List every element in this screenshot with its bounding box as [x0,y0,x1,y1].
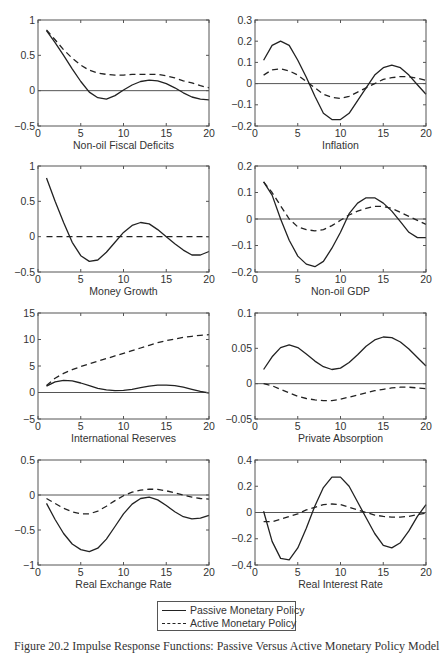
panel-international-reserves: 05101520−5051015International Reserves [23,307,215,445]
y-tick-label: −0.2 [231,532,252,544]
active-policy-line [47,489,210,514]
plot-frame [38,460,209,565]
x-tick-label: 0 [252,566,258,578]
y-tick-label: −1 [23,559,35,571]
x-tick-label: 20 [420,273,432,285]
y-tick-label: 0.4 [237,454,252,466]
plot-frame [38,20,209,126]
passive-policy-line [47,497,210,552]
y-tick-label: 0 [246,377,252,389]
legend-entry-active: Active Monetary Policy [162,616,296,630]
y-tick-label: −0.5 [14,120,35,132]
y-tick-label: 10 [23,333,35,345]
x-tick-label: 20 [420,566,432,578]
x-tick-label: 20 [420,420,432,432]
x-tick-label: 5 [295,127,301,139]
panel-real-interest-rate: 05101520−0.4−0.200.20.4Real Interest Rat… [231,454,432,591]
plot-frame [38,166,209,272]
y-tick-label: 0.2 [237,35,252,47]
x-tick-label: 0 [35,273,41,285]
panel-inflation: 05101520−0.2−0.100.10.20.3Inflation [231,14,432,152]
plot-frame [38,313,209,419]
y-tick-label: −0.4 [231,559,252,571]
y-tick-label: −0.1 [231,239,252,251]
x-axis-label: Non-oil Fiscal Deficits [73,139,174,151]
y-tick-label: 0.3 [237,14,252,26]
x-axis-label: International Reserves [71,432,176,444]
active-policy-line [47,335,210,386]
y-tick-label: 0.05 [232,342,253,354]
x-tick-label: 0 [35,127,41,139]
y-tick-label: 0 [29,386,35,398]
legend-label-passive: Passive Monetary Policy [190,603,304,617]
y-tick-label: 0.5 [20,454,35,466]
x-tick-label: 15 [377,127,389,139]
y-tick-label: 0 [246,506,252,518]
y-tick-label: 0.1 [237,307,252,319]
x-tick-label: 15 [377,420,389,432]
y-tick-label: 1 [29,160,35,172]
x-tick-label: 20 [203,127,215,139]
panel-non-oil-fiscal-deficits: 05101520−0.500.51Non-oil Fiscal Deficits [14,14,215,152]
y-tick-label: 0 [29,84,35,96]
x-tick-label: 15 [377,273,389,285]
x-axis-label: Non-oil GDP [311,285,370,297]
passive-policy-line [47,380,210,393]
x-tick-label: 0 [252,420,258,432]
x-tick-label: 15 [160,420,172,432]
panel-money-growth: 05101520−0.500.51Money Growth [14,160,215,298]
y-tick-label: 5 [29,360,35,372]
x-tick-label: 10 [118,273,130,285]
x-tick-label: 0 [35,566,41,578]
y-tick-label: 0.1 [237,56,252,68]
passive-policy-line [264,41,426,119]
plot-frame [255,20,426,126]
x-tick-label: 5 [295,566,301,578]
x-tick-label: 5 [295,420,301,432]
passive-policy-line [264,337,426,370]
passive-policy-line [264,477,426,560]
legend-entry-passive: Passive Monetary Policy [162,603,304,617]
x-tick-label: 5 [78,273,84,285]
y-tick-label: 0 [246,213,252,225]
y-tick-label: −0.5 [14,524,35,536]
y-tick-label: 0.5 [20,195,35,207]
passive-policy-line [47,31,210,100]
x-axis-label: Inflation [322,139,359,151]
figure-caption: Figure 20.2 Impulse Response Functions: … [14,639,439,654]
x-tick-label: 20 [420,127,432,139]
x-tick-label: 15 [160,273,172,285]
panel-real-exchange-rate: 05101520−1−0.500.5Real Exchange Rate [14,454,215,591]
y-tick-label: 15 [23,307,35,319]
x-tick-label: 15 [377,566,389,578]
x-tick-label: 15 [160,566,172,578]
legend-label-active: Active Monetary Policy [190,616,296,630]
x-tick-label: 0 [35,420,41,432]
legend: Passive Monetary Policy Active Monetary … [157,601,296,631]
x-tick-label: 5 [295,273,301,285]
x-tick-label: 10 [335,273,347,285]
x-tick-label: 5 [78,566,84,578]
y-tick-label: −0.1 [231,98,252,110]
y-tick-label: 0.2 [237,480,252,492]
x-tick-label: 0 [252,273,258,285]
active-policy-line [47,30,210,88]
x-tick-label: 5 [78,127,84,139]
x-axis-label: Real Interest Rate [298,578,383,590]
y-tick-label: 1 [29,14,35,26]
y-tick-label: 0 [246,77,252,89]
plot-frame [255,313,426,419]
x-tick-label: 10 [118,420,130,432]
y-tick-label: −0.2 [231,120,252,132]
y-tick-label: −0.5 [14,266,35,278]
x-tick-label: 10 [118,566,130,578]
y-tick-label: 0.2 [237,160,252,172]
passive-policy-line [264,182,426,267]
x-tick-label: 20 [203,273,215,285]
x-tick-label: 10 [118,127,130,139]
y-tick-label: −0.05 [225,413,252,425]
x-axis-label: Private Absorption [298,432,383,444]
dashed-line-swatch-icon [162,623,186,624]
x-tick-label: 10 [335,127,347,139]
